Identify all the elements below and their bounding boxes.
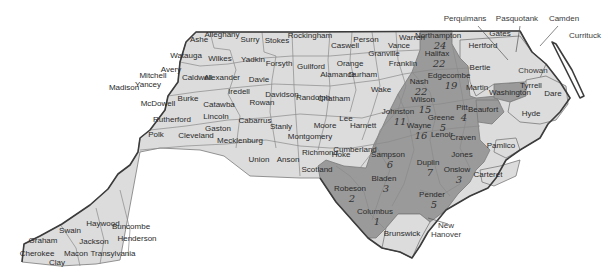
county-label-harnett: Harnett <box>350 121 377 130</box>
external-label: Hanover <box>431 230 462 239</box>
county-label-henderson: Henderson <box>117 234 156 243</box>
county-label-granville: Granville <box>368 49 400 58</box>
handwritten-note: 15 <box>419 104 432 115</box>
county-label-bladen: Bladen <box>372 174 397 183</box>
county-label-yadkin: Yadkin <box>241 55 265 64</box>
external-label: Camden <box>549 14 579 23</box>
external-label: Perquimans <box>444 14 487 23</box>
county-label-northampton: Northampton <box>415 31 461 40</box>
county-label-clay: Clay <box>49 258 65 267</box>
county-label-gates: Gates <box>489 29 510 38</box>
county-label-duplin: Duplin <box>417 158 440 167</box>
county-label-wilkes: Wilkes <box>208 54 232 63</box>
county-label-jones: Jones <box>451 150 472 159</box>
handwritten-note: 22 <box>414 86 428 97</box>
county-label-yancey: Yancey <box>135 80 161 89</box>
county-label-rockingham: Rockingham <box>288 31 333 40</box>
county-label-davie: Davie <box>249 75 270 84</box>
county-label-hertford: Hertford <box>469 41 498 50</box>
county-label-wayne: Wayne <box>407 121 432 130</box>
handwritten-note: 4 <box>460 112 467 123</box>
handwritten-note: 24 <box>433 40 447 51</box>
county-label-carteret: Carteret <box>474 170 504 179</box>
handwritten-note: 19 <box>445 80 458 91</box>
handwritten-note: 3 <box>383 183 389 194</box>
county-label-hyde: Hyde <box>522 109 541 118</box>
external-label: Pasquotank <box>496 14 539 23</box>
county-label-robeson: Robeson <box>334 184 366 193</box>
handwritten-note: 22 <box>432 58 446 69</box>
county-label-durham: Durham <box>349 70 378 79</box>
county-label-avery: Avery <box>161 65 181 74</box>
county-label-sampson: Sampson <box>371 150 405 159</box>
county-label-gaston: Gaston <box>205 124 231 133</box>
county-label-greene: Greene <box>428 113 455 122</box>
county-label-transylvania: Transylvania <box>90 249 136 258</box>
county-label-bertie: Bertie <box>470 63 491 72</box>
county-label-beaufort: Beaufort <box>468 105 499 114</box>
county-label-edgecombe: Edgecombe <box>428 71 471 80</box>
nc-county-map: CherokeeClayGrahamSwainMaconJacksonHaywo… <box>0 0 607 273</box>
county-label-alleghany: Alleghany <box>204 30 239 39</box>
county-label-orange: Orange <box>337 59 364 68</box>
county-label-franklin: Franklin <box>389 59 417 68</box>
county-label-stokes: Stokes <box>265 36 289 45</box>
handwritten-note: 6 <box>387 159 394 170</box>
county-label-johnston: Johnston <box>382 107 414 116</box>
handwritten-note: 5 <box>431 199 437 210</box>
county-label-martin: Martin <box>466 83 488 92</box>
county-label-mcdowell: McDowell <box>141 99 176 108</box>
external-label: Currituck <box>569 31 602 40</box>
handwritten-note: 7 <box>427 167 434 178</box>
county-label-craven: Craven <box>450 133 476 142</box>
county-label-montgomery: Montgomery <box>288 132 332 141</box>
county-label-iredell: Iredell <box>228 87 250 96</box>
county-label-union: Union <box>249 155 270 164</box>
county-label-dare: Dare <box>544 89 562 98</box>
handwritten-note: 5 <box>440 122 446 133</box>
handwritten-note: 3 <box>456 174 462 185</box>
county-label-alexander: Alexander <box>204 73 240 82</box>
county-label-cherokee: Cherokee <box>20 249 55 258</box>
external-label: Chowan <box>518 66 547 75</box>
county-label-rowan: Rowan <box>250 98 275 107</box>
handwritten-note: 11 <box>394 116 407 127</box>
county-label-pamlico: Pamlico <box>487 141 516 150</box>
county-label-tyrrell: Tyrrell <box>520 81 542 90</box>
county-label-forsyth: Forsyth <box>266 59 293 68</box>
handwritten-note: 1 <box>374 216 380 227</box>
external-label: New <box>438 221 454 230</box>
county-label-pender: Pender <box>419 190 445 199</box>
county-label-chatham: Chatham <box>318 94 351 103</box>
county-label-mecklenburg: Mecklenburg <box>217 136 263 145</box>
county-label-davidson: Davidson <box>265 90 298 99</box>
handwritten-note: 16 <box>415 130 428 141</box>
county-label-burke: Burke <box>178 94 199 103</box>
county-label-anson: Anson <box>277 155 300 164</box>
county-label-graham: Graham <box>29 236 58 245</box>
county-label-vance: Vance <box>388 41 411 50</box>
county-label-columbus: Columbus <box>357 207 393 216</box>
county-label-surry: Surry <box>240 35 259 44</box>
county-label-buncombe: Buncombe <box>112 222 151 231</box>
county-label-cabarrus: Cabarrus <box>239 116 272 125</box>
county-label-nash: Nash <box>410 77 429 86</box>
county-label-catawba: Catawba <box>203 100 235 109</box>
county-label-wake: Wake <box>371 85 392 94</box>
county-label-rutherford: Rutherford <box>153 115 191 124</box>
county-label-stanly: Stanly <box>270 122 292 131</box>
county-label-person: Person <box>353 35 378 44</box>
county-label-polk: Polk <box>148 130 165 139</box>
county-label-pitt: Pitt <box>456 103 468 112</box>
county-label-macon: Macon <box>64 249 88 258</box>
county-label-scotland: Scotland <box>301 165 332 174</box>
county-label-moore: Moore <box>314 121 337 130</box>
county-label-brunswick: Brunswick <box>384 229 421 238</box>
handwritten-note: 2 <box>348 193 355 204</box>
county-label-jackson: Jackson <box>79 237 108 246</box>
county-label-onslow: Onslow <box>444 165 471 174</box>
county-label-lincoln: Lincoln <box>203 112 228 121</box>
county-label-swain: Swain <box>59 226 81 235</box>
county-label-watauga: Watauga <box>170 51 202 60</box>
